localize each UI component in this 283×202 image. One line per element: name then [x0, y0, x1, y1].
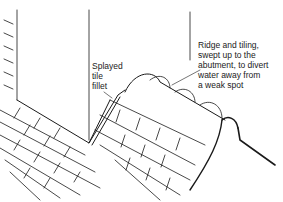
- wall-hatching: [4, 10, 17, 100]
- ridge-tiling-label: Ridge and tiling, swept up to the abutme…: [198, 40, 268, 90]
- fillet-leader: [104, 92, 112, 98]
- splayed-tile-fillet-label: Splayed tile fillet: [92, 61, 123, 91]
- left-slope-tiles: [0, 108, 100, 200]
- ridge-tiles: [125, 74, 275, 190]
- right-slope-tiles: [95, 100, 205, 200]
- ridge-leader: [172, 70, 200, 85]
- left-slope-edge: [17, 100, 110, 143]
- roof-illustration: [0, 0, 283, 202]
